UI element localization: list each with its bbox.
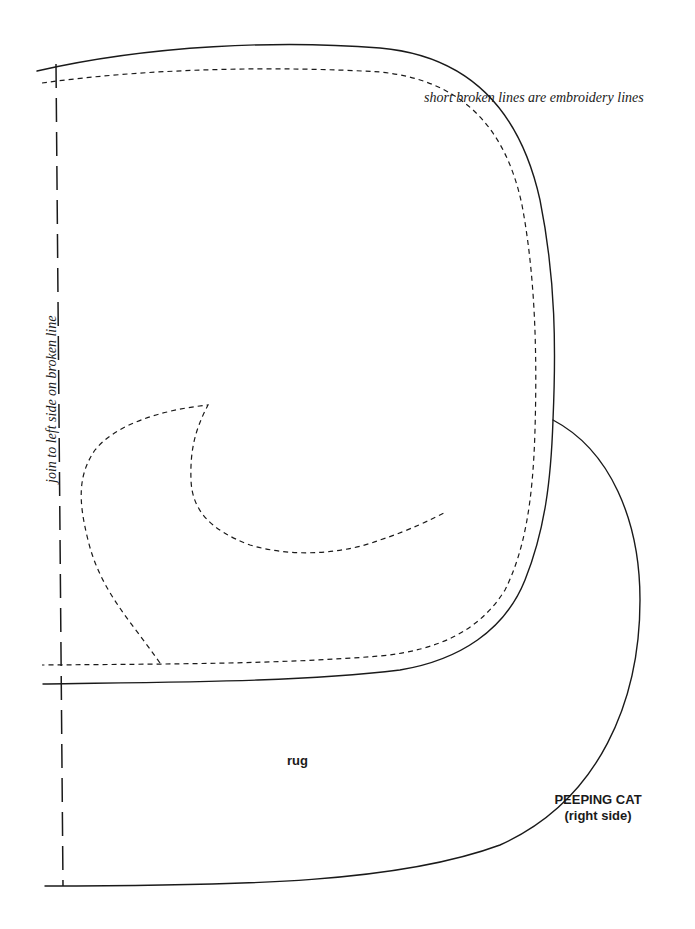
pattern-title: PEEPING CAT (right side) — [548, 792, 648, 824]
pattern-title-main: PEEPING CAT — [548, 792, 648, 808]
rug-label: rug — [287, 753, 308, 769]
join-note: join to left side on broken line — [44, 316, 60, 483]
pattern-drawing — [0, 0, 695, 929]
embroidery-note: short broken lines are embroidery lines — [424, 90, 644, 106]
head-outline — [37, 45, 555, 684]
inner-dashed-outline — [42, 69, 536, 665]
pattern-title-sub: (right side) — [548, 808, 648, 824]
paw-embroidery-line — [81, 405, 446, 663]
